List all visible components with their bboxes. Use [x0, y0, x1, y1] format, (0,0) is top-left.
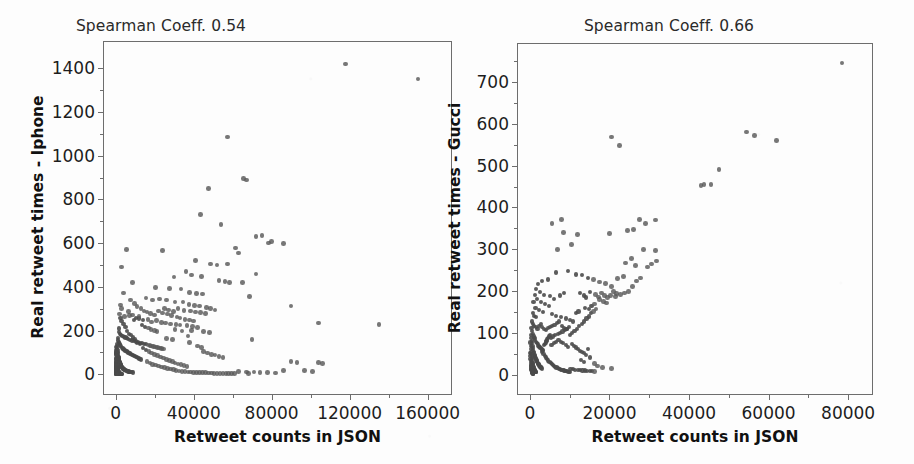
y-tick-minor: [100, 221, 104, 222]
figure-canvas: Spearman Coeff. 0.54 0200400600800100012…: [0, 0, 914, 464]
scatter-point: [141, 318, 145, 322]
scatter-point: [144, 296, 149, 301]
scatter-point: [132, 301, 137, 306]
scatter-point: [579, 358, 583, 362]
y-tick-minor: [100, 134, 104, 135]
x-tick-label: 120000: [317, 403, 382, 423]
x-tick: [272, 394, 273, 400]
scatter-point: [115, 372, 119, 376]
scatter-point: [621, 274, 626, 279]
y-tick-label: 600: [63, 233, 95, 253]
scatter-point: [266, 241, 271, 246]
scatter-point: [178, 323, 183, 328]
scatter-point: [194, 291, 199, 296]
scatter-point: [625, 228, 630, 233]
y-tick: [98, 112, 104, 113]
scatter-point: [592, 302, 597, 307]
scatter-point: [617, 143, 622, 148]
x-tick-minor: [233, 394, 234, 398]
scatter-point: [654, 259, 659, 264]
scatter-point: [531, 372, 535, 376]
scatter-point: [178, 316, 183, 321]
scatter-point: [377, 322, 382, 327]
scatter-point: [191, 319, 196, 324]
scatter-point: [197, 304, 202, 309]
scatter-point: [591, 277, 596, 282]
y-tick-minor: [514, 312, 518, 313]
scatter-point: [576, 309, 580, 313]
x-tick: [689, 394, 690, 400]
scatter-point: [555, 247, 560, 252]
scatter-point: [592, 369, 597, 374]
y-tick-label: 300: [477, 239, 509, 259]
scatter-points-right: [518, 44, 872, 394]
scatter-point: [586, 276, 590, 280]
scatter-point: [172, 275, 177, 280]
scatter-point: [236, 369, 241, 374]
scatter-point: [343, 62, 348, 67]
scatter-point: [213, 308, 218, 313]
scatter-point: [547, 304, 551, 308]
x-tick-minor: [808, 394, 809, 398]
x-tick-label: 0: [110, 403, 121, 423]
x-axis-label-left: Retweet counts in JSON: [104, 428, 451, 446]
x-tick-label: 20000: [582, 403, 636, 423]
scatter-point: [185, 364, 190, 369]
scatter-point: [571, 319, 575, 323]
scatter-point: [150, 298, 155, 303]
scatter-point: [156, 309, 161, 314]
scatter-point: [643, 221, 648, 226]
scatter-point: [240, 280, 245, 285]
scatter-point: [193, 258, 198, 263]
scatter-point: [594, 307, 599, 312]
scatter-point: [227, 280, 232, 285]
scatter-point: [540, 366, 544, 370]
y-tick-minor: [100, 178, 104, 179]
scatter-point: [173, 327, 178, 332]
y-tick-label: 500: [477, 156, 509, 176]
scatter-point: [717, 167, 722, 172]
x-tick: [848, 394, 849, 400]
scatter-point: [130, 313, 135, 318]
scatter-point: [597, 280, 602, 285]
scatter-point: [637, 217, 642, 222]
y-tick-label: 800: [63, 189, 95, 209]
x-tick-label: 60000: [742, 403, 796, 423]
scatter-point: [565, 327, 569, 331]
scatter-point: [186, 334, 191, 339]
scatter-point: [153, 285, 158, 290]
y-tick-label: 600: [477, 114, 509, 134]
scatter-point: [638, 276, 643, 281]
y-tick: [98, 287, 104, 288]
scatter-point: [124, 247, 129, 252]
scatter-point: [265, 370, 270, 375]
scatter-point: [584, 295, 588, 299]
scatter-point: [203, 311, 208, 316]
scatter-point: [623, 261, 628, 266]
scatter-point: [121, 291, 126, 296]
scatter-point: [244, 178, 249, 183]
scatter-point: [550, 221, 555, 226]
scatter-point: [208, 262, 213, 267]
scatter-point: [254, 272, 259, 277]
x-tick: [428, 394, 429, 400]
scatter-point: [557, 319, 561, 323]
y-tick: [98, 374, 104, 375]
scatter-point: [302, 368, 307, 373]
scatter-point: [250, 337, 255, 342]
scatter-point: [219, 222, 224, 227]
scatter-point: [126, 309, 131, 314]
scatter-point: [574, 272, 578, 276]
scatter-point: [195, 325, 200, 330]
scatter-point: [119, 319, 123, 323]
scatter-point: [641, 247, 646, 252]
x-tick-label: 80000: [821, 403, 875, 423]
y-tick-label: 100: [477, 323, 509, 343]
scatter-point: [184, 269, 189, 274]
scatter-point: [562, 291, 566, 295]
y-tick-label: 200: [477, 281, 509, 301]
scatter-point: [258, 370, 263, 375]
scatter-point: [185, 323, 190, 328]
scatter-panel-iphone: Spearman Coeff. 0.54 0200400600800100012…: [0, 0, 462, 464]
x-tick: [350, 394, 351, 400]
